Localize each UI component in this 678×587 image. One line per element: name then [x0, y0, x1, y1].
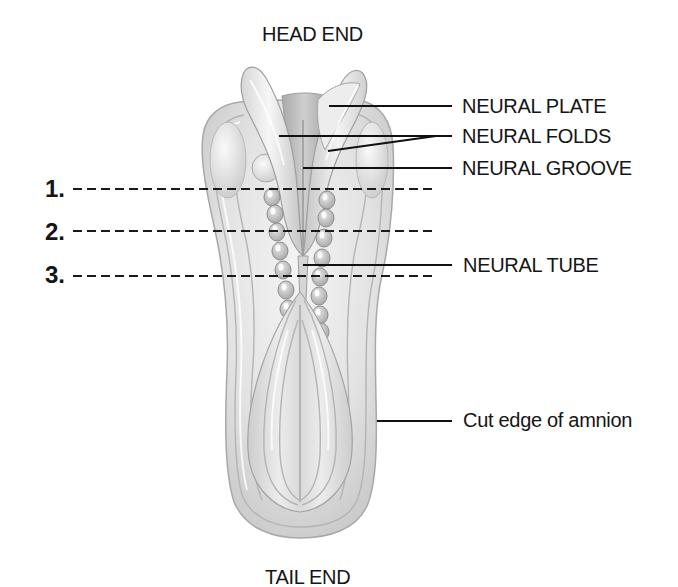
- somite-highlight: [322, 212, 327, 219]
- somite: [318, 209, 334, 227]
- head-end-label: HEAD END: [262, 23, 363, 45]
- somite: [264, 188, 280, 206]
- somite: [278, 281, 294, 299]
- somite-highlight: [316, 309, 321, 316]
- somite-highlight: [276, 245, 281, 252]
- somite: [311, 287, 327, 305]
- tail-end-label: TAIL END: [265, 566, 350, 587]
- embryo-illustration: [202, 67, 393, 538]
- section-number-3: 3.: [45, 261, 65, 288]
- head-bulge-right: [356, 122, 388, 198]
- somite-highlight: [279, 264, 284, 271]
- label-neural-tube: NEURAL TUBE: [463, 254, 599, 276]
- somite: [319, 191, 335, 209]
- label-neural-plate: NEURAL PLATE: [462, 95, 606, 117]
- somite: [267, 205, 283, 223]
- somite-highlight: [271, 208, 276, 215]
- embryo-diagram: HEAD END TAIL END: [0, 0, 678, 587]
- somite-highlight: [318, 252, 323, 259]
- head-bulge-left: [210, 122, 246, 198]
- somite-highlight: [268, 191, 273, 198]
- somite-highlight: [323, 194, 328, 201]
- label-cut-edge-of-amnion: Cut edge of amnion: [463, 409, 632, 431]
- label-neural-folds: NEURAL FOLDS: [462, 125, 611, 147]
- section-number-2: 2.: [45, 218, 65, 245]
- somite-highlight: [315, 290, 320, 297]
- somite-highlight: [320, 232, 325, 239]
- somite: [272, 242, 288, 260]
- somite-highlight: [282, 284, 287, 291]
- section-number-1: 1.: [45, 175, 65, 202]
- diagram-canvas: HEAD END TAIL END: [0, 0, 678, 587]
- label-neural-groove: NEURAL GROOVE: [462, 157, 632, 179]
